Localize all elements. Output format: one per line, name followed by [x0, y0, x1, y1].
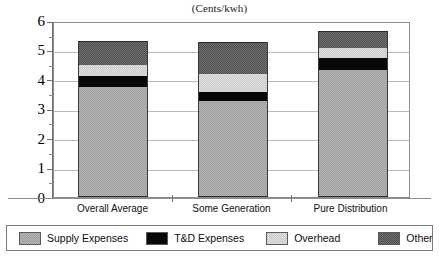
x-axis-label-pure-distribution: Pure Distribution	[291, 203, 410, 214]
x-axis-separator-1	[172, 195, 173, 202]
bar-segment-overhead	[318, 48, 388, 58]
y-axis-label-5: 5	[5, 43, 45, 58]
bar-segment-other	[198, 42, 268, 74]
legend-swatch-other-icon	[378, 232, 400, 245]
y-tick-minor-0.5	[49, 183, 53, 184]
legend-item-other[interactable]: Other	[378, 232, 432, 245]
bar-segment-supply-expenses	[318, 70, 388, 197]
y-tick-minor-1.5	[49, 154, 53, 155]
x-axis-label-some-generation: Some Generation	[172, 203, 291, 214]
legend-label-td-expenses: T&D Expenses	[174, 232, 244, 244]
legend-item-supply-expenses[interactable]: Supply Expenses	[19, 232, 128, 245]
bar-segment-other	[78, 41, 148, 66]
legend-label-overhead: Overhead	[294, 232, 340, 244]
y-tick-6	[47, 22, 53, 23]
stacked-bar-chart: (Cents/kwh)	[0, 0, 439, 258]
chart-legend: Supply Expenses T&D Expenses Overhead Ot…	[6, 225, 433, 251]
y-tick-5	[47, 51, 53, 52]
y-tick-2	[47, 139, 53, 140]
bar-segment-supply-expenses	[78, 87, 148, 197]
legend-swatch-supply-expenses-icon	[19, 232, 41, 245]
y-tick-1	[47, 169, 53, 170]
x-axis-line	[8, 198, 431, 199]
x-axis-label-overall-average: Overall Average	[53, 203, 172, 214]
y-axis-label-3: 3	[5, 102, 45, 117]
bar-segment-overhead	[198, 74, 268, 92]
x-axis-separator-2	[291, 195, 292, 202]
y-tick-minor-3.5	[49, 95, 53, 96]
y-tick-minor-5.5	[49, 37, 53, 38]
y-tick-minor-2.5	[49, 124, 53, 125]
y-axis-label-2: 2	[5, 132, 45, 147]
bar-segment-other	[318, 31, 388, 48]
bar-segment-supply-expenses	[198, 101, 268, 197]
y-axis-label-1: 1	[5, 161, 45, 176]
legend-label-supply-expenses: Supply Expenses	[47, 232, 128, 244]
legend-item-td-expenses[interactable]: T&D Expenses	[146, 232, 244, 245]
legend-item-overhead[interactable]: Overhead	[266, 232, 340, 245]
bar-segment-overhead	[78, 65, 148, 76]
y-axis-label-4: 4	[5, 73, 45, 88]
y-tick-minor-4.5	[49, 66, 53, 67]
legend-swatch-td-expenses-icon	[146, 232, 168, 245]
legend-label-other: Other	[406, 232, 432, 244]
y-tick-3	[47, 110, 53, 111]
y-axis-label-6: 6	[5, 14, 45, 29]
chart-title: (Cents/kwh)	[0, 2, 439, 14]
plot-area	[53, 22, 410, 198]
y-tick-4	[47, 80, 53, 81]
legend-swatch-overhead-icon	[266, 232, 288, 245]
